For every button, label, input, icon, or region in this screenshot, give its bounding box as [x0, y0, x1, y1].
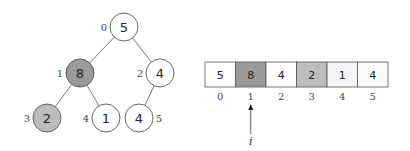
node-index-label: 0 — [101, 22, 107, 33]
cell-index-label: 4 — [339, 91, 345, 102]
array-representation: 508142231445 — [205, 62, 388, 102]
tree-edge — [55, 84, 71, 106]
tree-node-4: 14 — [83, 104, 120, 132]
tree-edge — [87, 85, 99, 106]
node-index-label: 5 — [156, 113, 162, 124]
cell-index-label: 5 — [370, 91, 376, 102]
heap-diagram: 508142231445 508142231445 i — [0, 0, 410, 151]
array-cell-0: 50 — [205, 62, 236, 102]
tree-node-1: 81 — [57, 59, 94, 87]
array-cell-4: 14 — [327, 62, 358, 102]
cell-value: 1 — [339, 69, 346, 82]
cell-value: 8 — [247, 69, 254, 82]
array-cell-1: 81 — [236, 62, 267, 102]
tree-edge — [145, 86, 154, 106]
cell-value: 2 — [308, 69, 315, 82]
tree-node-2: 42 — [137, 59, 174, 87]
pointer-label: i — [249, 135, 253, 148]
index-pointer: i — [248, 104, 253, 148]
node-value: 1 — [102, 111, 110, 126]
cell-value: 4 — [369, 69, 376, 82]
node-index-label: 1 — [57, 68, 63, 79]
cell-index-label: 1 — [248, 91, 254, 102]
array-cell-2: 42 — [266, 62, 297, 102]
tree-node-3: 23 — [24, 104, 61, 132]
tree-node-5: 45 — [125, 104, 162, 132]
array-cell-5: 45 — [358, 62, 389, 102]
cell-index-label: 0 — [217, 91, 223, 102]
cell-index-label: 3 — [309, 91, 315, 102]
node-value: 8 — [76, 66, 84, 81]
cell-index-label: 2 — [278, 91, 284, 102]
tree-edge — [90, 37, 115, 63]
tree-nodes: 508142231445 — [24, 13, 174, 132]
cell-value: 5 — [217, 69, 224, 82]
node-value: 2 — [43, 111, 51, 126]
node-value: 4 — [135, 111, 143, 126]
arrow-up-icon — [248, 104, 253, 110]
node-value: 5 — [120, 20, 128, 35]
tree-node-0: 50 — [101, 13, 138, 41]
node-index-label: 2 — [137, 68, 143, 79]
tree-edge — [133, 38, 152, 62]
node-index-label: 4 — [83, 113, 89, 124]
array-cell-3: 23 — [297, 62, 328, 102]
node-index-label: 3 — [24, 113, 30, 124]
cell-value: 4 — [278, 69, 285, 82]
node-value: 4 — [156, 66, 164, 81]
